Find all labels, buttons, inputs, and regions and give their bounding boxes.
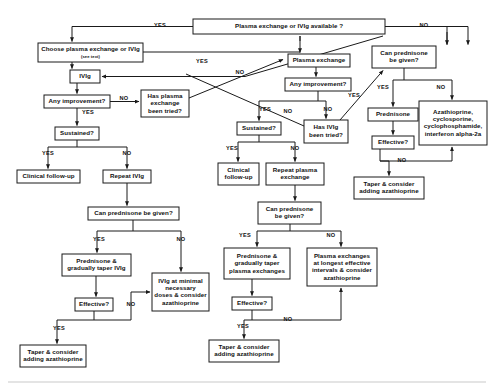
flow-node-n4[interactable]: Any improvement?	[44, 95, 110, 108]
node-label-n5: been tried?	[148, 107, 182, 114]
node-label-n29: Taper & consider	[364, 180, 415, 187]
node-label-n17: Has IVIg	[314, 123, 339, 130]
edge-n25-yes-n26	[393, 68, 404, 107]
node-label-n13: adding azathioprine	[23, 355, 83, 362]
node-label-n25: be given?	[389, 56, 419, 63]
flow-node-n29[interactable]: Taper & consideradding azathioprine	[354, 177, 424, 199]
edge-n20-yes-n21	[257, 224, 290, 247]
flow-node-n1[interactable]: Plasma exchange or IVIg available ?	[193, 19, 385, 34]
node-label-n10: gradually taper IVIg	[67, 264, 126, 271]
node-label-n14: Plasma exchange	[293, 56, 346, 63]
edge-label-el16: YES	[226, 145, 238, 151]
node-label-n21: gradually taper	[234, 259, 280, 266]
flow-node-n13[interactable]: Taper & consideradding azathioprine	[20, 345, 86, 367]
node-sublabel-n2: (see text)	[81, 54, 100, 59]
node-label-n24: adding azathioprine	[214, 350, 274, 357]
flow-node-n18[interactable]: Clinicalfollow-up	[218, 163, 259, 185]
edge-n11-yes-n13	[57, 320, 94, 344]
node-label-n12: IVIg at minimal	[158, 277, 203, 284]
flow-node-n24[interactable]: Taper & consideradding azathioprine	[209, 340, 279, 362]
node-label-n1: Plasma exchange or IVIg available ?	[235, 22, 343, 29]
edge-label-el17: NO	[291, 145, 300, 151]
node-label-n15: Any improvement?	[290, 80, 347, 87]
edge-label-el8: NO	[123, 150, 132, 156]
flow-node-n10[interactable]: Prednisone &gradually taper IVIg	[62, 254, 131, 276]
edge-label-el14: NO	[284, 108, 293, 114]
edge-label-el18: YES	[239, 232, 251, 238]
flow-node-n12[interactable]: IVIg at minimalnecessarydoses & consider…	[152, 273, 209, 311]
flow-node-n3[interactable]: IVIg	[70, 70, 100, 83]
flow-node-n9[interactable]: Can prednisone be given?	[88, 207, 179, 220]
node-label-n28: cyclosporine,	[433, 115, 474, 122]
flow-node-n27[interactable]: Effective?	[372, 136, 414, 149]
edge-label-el5: NO	[120, 95, 129, 101]
edge-label-el19: NO	[327, 232, 336, 238]
node-label-n21: Prednisone &	[237, 252, 278, 259]
node-label-n17: been tried?	[309, 131, 343, 138]
flow-node-n5[interactable]: Has plasmaexchangebeen tried?	[141, 90, 189, 117]
node-label-n23: at longest effective	[313, 259, 371, 266]
edge-label-el3: YES	[196, 58, 208, 64]
node-label-n23: Plasma exchanges	[314, 252, 371, 259]
flow-node-n17[interactable]: Has IVIgbeen tried?	[304, 120, 348, 143]
edge-label-el9: YES	[93, 236, 105, 242]
treatment-algorithm-flowchart: Plasma exchange or IVIg available ?Choos…	[0, 0, 493, 388]
node-label-n16: Sustained?	[242, 124, 276, 131]
node-label-n12: necessary	[165, 284, 196, 291]
node-label-n11: Effective?	[79, 300, 109, 307]
node-label-n18: Clinical	[227, 166, 250, 173]
flow-node-n23[interactable]: Plasma exchangesat longest effectiveinte…	[307, 248, 377, 286]
edge-label-el6: YES	[82, 109, 94, 115]
node-label-n26: Prednisone	[376, 110, 411, 117]
node-label-n25: Can prednisone	[380, 49, 428, 56]
node-label-n28: cyclophosphamide,	[424, 122, 483, 129]
edge-label-el21: YES	[237, 323, 249, 329]
node-label-n24: Taper & consider	[219, 343, 270, 350]
edge-n16-no-n19	[259, 142, 295, 162]
flow-node-n7[interactable]: Clinical follow-up	[17, 170, 80, 183]
flow-node-n25[interactable]: Can prednisonebe given?	[372, 46, 436, 68]
flow-node-n19[interactable]: Repeat plasmaexchange	[266, 163, 324, 185]
node-label-n21: plasma exchanges	[229, 267, 285, 274]
edge-label-el7: YES	[42, 150, 54, 156]
edge-n1-no	[385, 27, 468, 45]
node-label-n3: IVIg	[79, 72, 91, 79]
node-label-n22: Effective?	[237, 299, 267, 306]
flow-node-n2[interactable]: Choose plasma exchange or IVIg(see text)	[38, 43, 143, 62]
edge-label-el2: NO	[420, 22, 429, 28]
flow-node-n15[interactable]: Any improvement?	[285, 78, 351, 91]
node-label-n6: Sustained?	[60, 129, 94, 136]
flow-node-n28[interactable]: Azathioprine,cyclosporine,cyclophosphami…	[419, 101, 487, 145]
edge-label-el4: NO	[236, 69, 245, 75]
node-label-n23: intervals & consider	[312, 266, 373, 273]
node-label-n18: follow-up	[225, 173, 253, 180]
edge-label-el13: YES	[259, 106, 271, 112]
flow-node-n6[interactable]: Sustained?	[55, 127, 99, 140]
edge-label-el11: NO	[127, 301, 136, 307]
node-label-n5: Has plasma	[148, 92, 183, 99]
node-label-n12: doses & consider	[154, 291, 207, 298]
flow-node-n26[interactable]: Prednisone	[368, 108, 418, 121]
edge-label-el12: YES	[53, 325, 65, 331]
edge-n16-yes-n18	[238, 135, 259, 162]
node-label-n23: azathioprine	[323, 274, 361, 281]
flow-node-n21[interactable]: Prednisone &gradually taperplasma exchan…	[224, 248, 290, 279]
edge-label-el25: NO	[398, 157, 407, 163]
edge-label-el23: YES	[377, 84, 389, 90]
node-label-n12: azathioprine	[162, 299, 200, 306]
node-label-n28: interferon alpha-2a	[425, 130, 482, 137]
edge-n9-no-n12	[133, 231, 181, 272]
node-label-n8: Repeat IVIg	[110, 172, 144, 179]
flow-node-n20[interactable]: Can prednisonebe given?	[258, 202, 321, 224]
flow-node-n14[interactable]: Plasma exchange	[288, 54, 350, 67]
node-label-n20: be given?	[275, 212, 305, 219]
edge-label-el1: YES	[154, 22, 166, 28]
node-label-n2: Choose plasma exchange or IVIg	[41, 45, 140, 52]
node-label-n5: exchange	[151, 99, 180, 106]
flow-node-n11[interactable]: Effective?	[75, 298, 113, 311]
node-label-n10: Prednisone &	[76, 257, 117, 264]
flow-node-n22[interactable]: Effective?	[232, 297, 272, 310]
flow-node-n16[interactable]: Sustained?	[237, 122, 281, 135]
edge-label-el10: NO	[177, 236, 186, 242]
flow-node-n8[interactable]: Repeat IVIg	[103, 170, 151, 183]
